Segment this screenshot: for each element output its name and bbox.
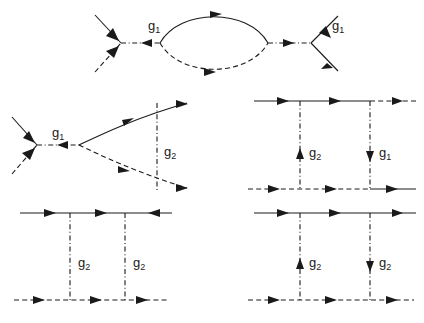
br-arrowhead-rung-left-up — [296, 258, 304, 269]
bl-arrowhead-top-1 — [44, 209, 56, 217]
ml-arrowhead-bottom-out — [176, 184, 188, 192]
ml-arrowhead-left-lower — [22, 148, 35, 160]
arrowhead-left-lower — [106, 46, 119, 58]
arrowhead-left-upper — [106, 28, 119, 41]
br-arrowhead-bottom-1 — [268, 296, 280, 304]
br-arrowhead-rung-right-down — [366, 261, 374, 272]
label-g1-right: g1 — [332, 18, 344, 35]
mr-arrowhead-bottom-1 — [268, 185, 280, 193]
arrowhead-internal-left — [141, 39, 152, 47]
mr-label-g2: g2 — [309, 145, 321, 162]
bl-arrowhead-bottom-2 — [90, 296, 102, 304]
mr-arrowhead-top-2 — [329, 97, 341, 105]
mr-arrowhead-bottom-2 — [325, 185, 337, 193]
mr-arrowhead-top-1 — [277, 97, 289, 105]
diagram-top-bubble: g1 g1 — [95, 11, 344, 76]
bl-arrowhead-top-3 — [148, 209, 160, 217]
diagram-bottom-right-ladder: g2 g2 — [248, 209, 416, 304]
bl-label-g2-left: g2 — [78, 255, 90, 272]
br-arrowhead-bottom-2 — [325, 296, 337, 304]
br-arrowhead-top-2 — [329, 209, 341, 217]
mr-arrowhead-top-3 — [392, 97, 403, 105]
bl-arrowhead-bottom-1 — [33, 296, 45, 304]
br-arrowhead-top-3 — [392, 209, 403, 217]
diagram-mid-right-ladder: g2 g1 — [248, 97, 416, 193]
mr-arrowhead-bottom-3 — [386, 185, 398, 193]
arrowhead-internal-right — [283, 39, 294, 47]
ml-arrowhead-left-upper — [23, 131, 35, 143]
diagram-canvas: g1 g1 g1 g2 — [0, 0, 424, 323]
ml-arrowhead-top-out — [176, 100, 188, 108]
feynman-diagram-figure: g1 g1 g1 g2 — [0, 0, 424, 323]
diagram-bottom-left-ladder: g2 g2 — [14, 209, 172, 304]
ml-arrowhead-internal — [57, 141, 68, 149]
bl-arrowhead-top-2 — [95, 209, 107, 217]
ml-label-g2: g2 — [164, 144, 176, 161]
loop-upper-solid — [160, 17, 268, 43]
br-arrowhead-top-1 — [277, 209, 289, 217]
br-arrowhead-bottom-3 — [386, 296, 398, 304]
arrowhead-right-upper — [319, 26, 331, 38]
mr-arrowhead-rung-left-up — [296, 148, 304, 159]
bl-arrowhead-bottom-3 — [136, 296, 148, 304]
loop-lower-dashed — [160, 43, 268, 69]
mr-label-g1: g1 — [379, 145, 391, 162]
diagram-mid-left-vertex-correction: g1 g2 — [12, 100, 188, 192]
ml-arc-upper-solid — [79, 103, 187, 145]
bl-label-g2-right: g2 — [133, 255, 145, 272]
br-label-g2-right: g2 — [379, 255, 391, 272]
ml-label-g1: g1 — [52, 125, 64, 142]
label-g1-left: g1 — [148, 18, 160, 35]
mr-arrowhead-rung-right-down — [366, 151, 374, 162]
br-label-g2-left: g2 — [309, 255, 321, 272]
